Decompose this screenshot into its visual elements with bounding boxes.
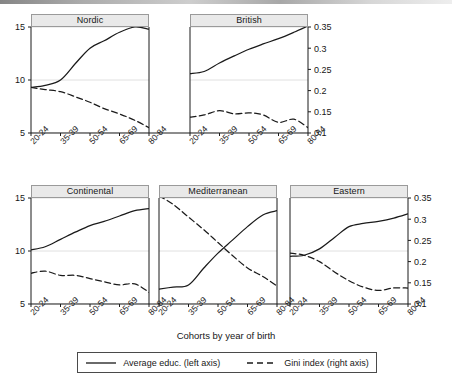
svg-text:0.35: 0.35 [314,22,332,32]
x-tick-label: 80-84 [305,124,327,146]
plot-area-nordic [31,27,149,133]
svg-text:0.2: 0.2 [314,86,327,96]
svg-text:0.2: 0.2 [414,257,427,267]
x-tick-label: 80-84 [405,295,427,317]
panel-header-continental: Continental [31,185,149,198]
svg-text:0.3: 0.3 [314,44,327,54]
panel-title-nordic: Nordic [77,16,104,25]
legend-item-average-educ: Average educ. (left axis) [85,358,220,368]
panel-header-british: British [190,14,308,27]
svg-text:15: 15 [15,22,25,32]
legend-label-gini-index: Gini index (right axis) [284,358,369,368]
x-axis-label: Cohorts by year of birth [0,330,452,341]
legend-label-average-educ: Average educ. (left axis) [123,358,220,368]
multi-panel-chart: Nordic British Continental Mediterranean… [0,0,452,383]
chart-legend: Average educ. (left axis) Gini index (ri… [77,352,377,373]
panel-title-continental: Continental [67,187,114,196]
legend-dashed-line-icon [246,358,278,368]
legend-item-gini-index: Gini index (right axis) [246,358,369,368]
svg-text:10: 10 [15,246,25,256]
panel-nordic: Nordic [31,14,149,133]
svg-text:0.25: 0.25 [414,236,432,246]
plot-area-eastern [290,198,408,304]
panel-mediterranean: Mediterranean [159,185,277,304]
svg-text:0.25: 0.25 [314,65,332,75]
svg-text:0.15: 0.15 [314,107,332,117]
svg-text:0.3: 0.3 [414,215,427,225]
svg-text:5: 5 [20,299,25,309]
svg-text:10: 10 [15,75,25,85]
panel-eastern: Eastern [290,185,408,304]
x-tick-label: 80-84 [146,124,168,146]
panel-title-mediterranean: Mediterranean [188,187,247,196]
svg-text:5: 5 [20,128,25,138]
svg-text:0.15: 0.15 [414,278,432,288]
plot-area-mediterranean [159,198,277,304]
panel-title-british: British [236,16,262,25]
svg-text:0.35: 0.35 [414,193,432,203]
legend-solid-line-icon [85,358,117,368]
panel-british: British [190,14,308,133]
panel-continental: Continental [31,185,149,304]
panel-header-eastern: Eastern [290,185,408,198]
plot-area-british [190,27,308,133]
panel-header-mediterranean: Mediterranean [159,185,277,198]
panel-header-nordic: Nordic [31,14,149,27]
plot-area-continental [31,198,149,304]
panel-title-eastern: Eastern [333,187,365,196]
svg-text:15: 15 [15,193,25,203]
